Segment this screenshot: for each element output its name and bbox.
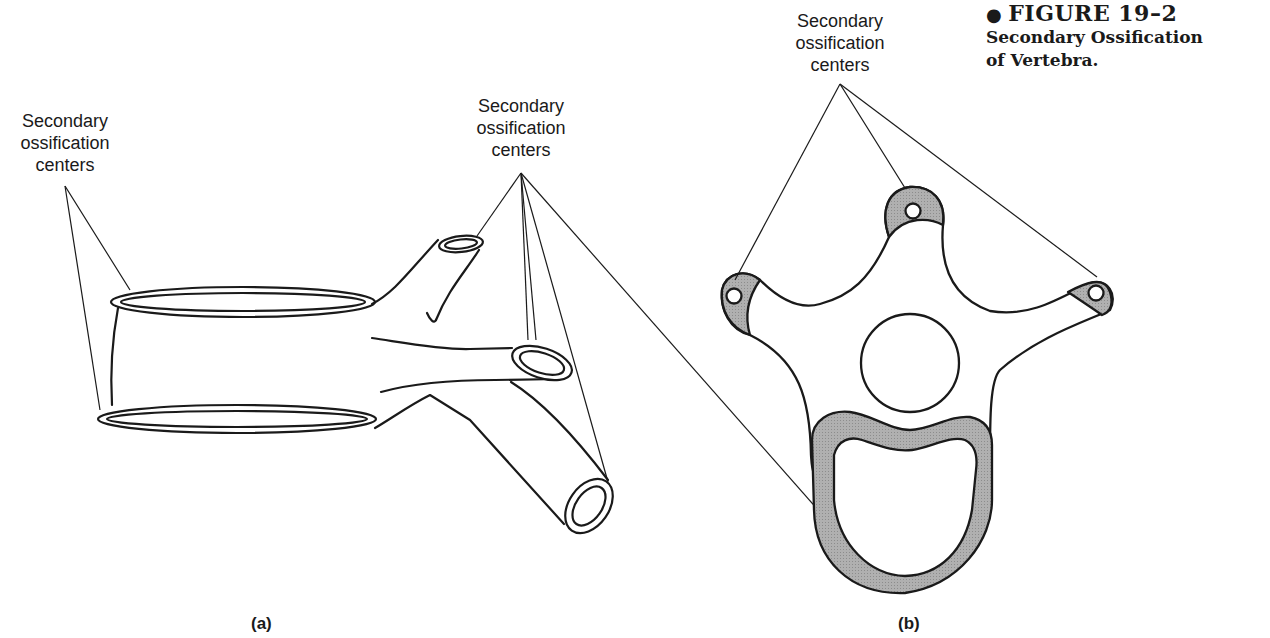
panel-b-drawing	[722, 187, 1113, 593]
figure-number-text: FIGURE 19–2	[1008, 0, 1177, 26]
figure-number: ●FIGURE 19–2	[986, 2, 1203, 26]
callout-line: centers	[10, 154, 120, 176]
callout-line: Secondary	[10, 110, 120, 132]
callout-line: Secondary	[785, 10, 895, 32]
panel-label-b: (b)	[898, 614, 920, 634]
callout-line: centers	[466, 139, 576, 161]
bullet-icon: ●	[986, 4, 1002, 25]
callout-label-a-middle: Secondary ossification centers	[466, 95, 576, 161]
figure-title-line-2: of Vertebra.	[986, 49, 1203, 72]
callout-line: centers	[785, 54, 895, 76]
callout-label-a-left: Secondary ossification centers	[10, 110, 120, 176]
callout-label-b-top: Secondary ossification centers	[785, 10, 895, 76]
figure-title-line-1: Secondary Ossification	[986, 26, 1203, 49]
callout-line: Secondary	[466, 95, 576, 117]
panel-label-a: (a)	[251, 614, 272, 634]
figure-artwork	[0, 0, 1270, 638]
callout-line: ossification	[785, 32, 895, 54]
panel-a-drawing	[98, 234, 623, 542]
callout-line: ossification	[466, 117, 576, 139]
callout-line: ossification	[10, 132, 120, 154]
figure-caption: ●FIGURE 19–2 Secondary Ossification of V…	[986, 2, 1203, 72]
